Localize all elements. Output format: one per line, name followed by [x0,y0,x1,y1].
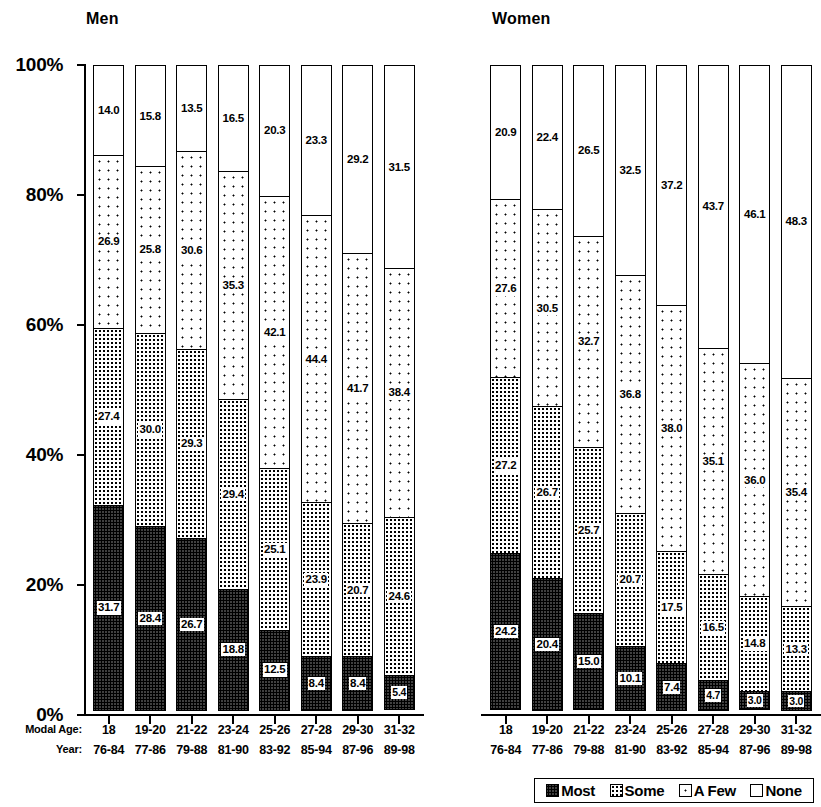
bar-segment-none[interactable]: 20.3 [259,65,290,197]
bar-segment-none[interactable]: 31.5 [384,65,415,270]
bar-segment-a-few[interactable]: 36.8 [615,275,646,514]
bar-segment-none[interactable]: 32.5 [615,65,646,276]
bar-segment-a-few[interactable]: 42.1 [259,196,290,470]
stacked-bar[interactable]: 13.530.629.326.7 [176,65,207,715]
stacked-bar[interactable]: 29.241.720.78.4 [342,65,373,715]
stacked-bar[interactable]: 26.532.725.715.0 [573,65,604,715]
legend-item-a-few[interactable]: A Few [679,782,736,799]
bar-segment-most[interactable]: 31.7 [93,505,124,711]
bar-segment-a-few[interactable]: 35.1 [698,348,729,576]
x-label-modal-age: 21-22 [168,723,216,737]
bar-segment-none[interactable]: 22.4 [532,65,563,211]
bar-segment-none[interactable]: 14.0 [93,65,124,156]
bar-segment-none[interactable]: 43.7 [698,65,729,349]
bar-segment-some[interactable]: 27.2 [490,377,521,554]
bar-segment-none[interactable]: 13.5 [176,65,207,153]
bar-segment-most[interactable]: 26.7 [176,538,207,712]
x-label-modal-age: 29-30 [334,723,382,737]
bar-segment-some[interactable]: 26.7 [532,406,563,580]
bar-segment-none[interactable]: 37.2 [656,65,687,307]
bar-segment-most[interactable]: 10.1 [615,646,646,712]
bar-segment-a-few[interactable]: 30.6 [176,151,207,350]
bar-segment-most[interactable]: 28.4 [135,526,166,711]
bar-segment-none[interactable]: 26.5 [573,65,604,237]
bar-segment-a-few[interactable]: 35.4 [781,378,812,608]
bar-segment-some[interactable]: 13.3 [781,606,812,692]
stacked-bar[interactable]: 20.342.125.112.5 [259,65,290,715]
y-tick-label: 40% [26,444,63,466]
bar-segment-most[interactable]: 7.4 [656,663,687,711]
bar-segment-some[interactable]: 29.4 [218,399,249,590]
bar-segment-some[interactable]: 20.7 [342,523,373,658]
bar-segment-value: 15.8 [138,110,162,124]
bar-segment-value: 13.3 [784,643,808,657]
bar-segment-a-few[interactable]: 30.5 [532,209,563,407]
bar-segment-some[interactable]: 27.4 [93,328,124,506]
bar-segment-a-few[interactable]: 25.8 [135,166,166,334]
bar-segment-most[interactable]: 12.5 [259,630,290,711]
bar-segment-some[interactable]: 30.0 [135,333,166,528]
bar-segment-most[interactable]: 3.0 [739,691,770,711]
stacked-bar[interactable]: 16.535.329.418.8 [218,65,249,715]
plot-area-men: 0%20%40%60%80%100% 14.026.927.431.715.82… [88,65,420,715]
bar-segment-none[interactable]: 46.1 [739,65,770,365]
x-label-modal-age: 19-20 [127,723,175,737]
stacked-bar[interactable]: 46.136.014.83.0 [739,65,770,715]
stacked-bar[interactable]: 31.538.424.65.4 [384,65,415,715]
bar-segment-a-few[interactable]: 38.0 [656,305,687,552]
bar-segment-none[interactable]: 15.8 [135,65,166,168]
bar-segment-some[interactable]: 20.7 [615,513,646,648]
bar-segment-most[interactable]: 15.0 [573,613,604,711]
bar-segment-some[interactable]: 14.8 [739,596,770,692]
legend-item-some[interactable]: Some [610,782,665,799]
stacked-bar[interactable]: 20.927.627.224.2 [490,65,521,715]
bar-segment-a-few[interactable]: 36.0 [739,363,770,597]
bar-segment-most[interactable]: 3.0 [781,691,812,711]
stacked-bar[interactable]: 14.026.927.431.7 [93,65,124,715]
bar-segment-a-few[interactable]: 27.6 [490,199,521,378]
bar-segment-some[interactable]: 29.3 [176,349,207,539]
stacked-bar[interactable]: 15.825.830.028.4 [135,65,166,715]
bar-segment-most[interactable]: 5.4 [384,675,415,710]
bar-segment-value: 8.4 [308,677,325,691]
bar-segment-some[interactable]: 25.7 [573,447,604,614]
bar-segment-a-few[interactable]: 35.3 [218,171,249,400]
x-label-modal-age: 27-28 [293,723,341,737]
bar-segment-none[interactable]: 20.9 [490,65,521,201]
bar-segment-a-few[interactable]: 44.4 [301,215,332,504]
bar-segment-some[interactable]: 17.5 [656,551,687,665]
stacked-bar[interactable]: 32.536.820.710.1 [615,65,646,715]
stacked-bar[interactable]: 22.430.526.720.4 [532,65,563,715]
bar-segment-a-few[interactable]: 26.9 [93,155,124,330]
bar-segment-most[interactable]: 18.8 [218,589,249,711]
legend-item-most[interactable]: Most [546,782,595,799]
bar-segment-none[interactable]: 29.2 [342,65,373,255]
bar-segment-most[interactable]: 8.4 [301,656,332,711]
bar-segment-a-few[interactable]: 41.7 [342,253,373,524]
x-label-year: 77-86 [524,743,572,757]
stacked-bar[interactable]: 23.344.423.98.4 [301,65,332,715]
bar-segment-a-few[interactable]: 32.7 [573,236,604,449]
legend-item-none[interactable]: None [750,782,801,799]
bar-segment-most[interactable]: 4.7 [698,680,729,711]
stacked-bar[interactable]: 48.335.413.33.0 [781,65,812,715]
bar-segment-most[interactable]: 8.4 [342,656,373,711]
x-label-year: 87-96 [731,743,779,757]
bar-segment-none[interactable]: 23.3 [301,65,332,216]
bar-segment-most[interactable]: 20.4 [532,578,563,711]
x-label-modal-age: 23-24 [210,723,258,737]
bar-segment-some[interactable]: 25.1 [259,468,290,631]
stacked-bar[interactable]: 37.238.017.57.4 [656,65,687,715]
bar-segment-most[interactable]: 24.2 [490,553,521,710]
x-tick-mark [671,715,673,724]
bar-segment-some[interactable]: 16.5 [698,574,729,681]
x-label-modal-age: 31-32 [773,723,821,737]
stacked-bar[interactable]: 43.735.116.54.7 [698,65,729,715]
bar-segment-none[interactable]: 16.5 [218,65,249,172]
bar-segment-none[interactable]: 48.3 [781,65,812,379]
bar-segment-some[interactable]: 23.9 [301,502,332,657]
bar-segment-value: 18.8 [221,643,245,657]
bar-segment-a-few[interactable]: 38.4 [384,268,415,518]
bar-segment-some[interactable]: 24.6 [384,517,415,677]
bar-segment-value: 24.6 [387,590,411,604]
